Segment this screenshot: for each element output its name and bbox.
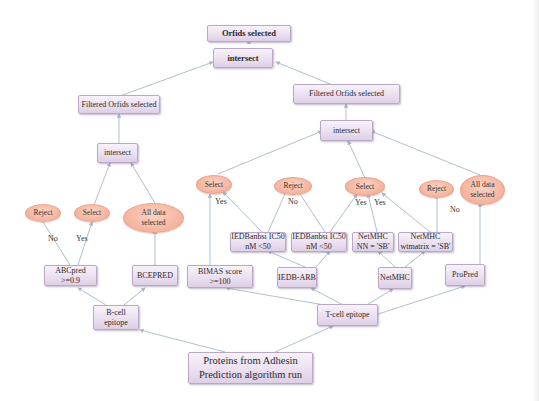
all-data-selected-t: All data selected bbox=[460, 175, 505, 205]
intersect-top-node: intersect bbox=[213, 48, 273, 68]
netmhc-wtmatrix-node: NetMHC wtmatrix = 'SB' bbox=[398, 232, 453, 252]
edge-bcell-to-bcepred bbox=[124, 288, 145, 305]
flowchart-canvas: Orfids selected intersect Filtered Orfid… bbox=[0, 0, 539, 401]
edge-tcell-to-bimas bbox=[226, 288, 330, 306]
edge-proteins-to-bcell bbox=[140, 330, 225, 352]
netmhc-node: NetMHC bbox=[378, 267, 412, 289]
all-data-selected-b: All data selected bbox=[123, 203, 184, 233]
iedb-ic50-node-2: IEDBanbsi IC50 nM <50 bbox=[291, 232, 347, 252]
edge-filteredleft-to-intersect bbox=[120, 62, 213, 96]
filtered-orfids-left-node: Filtered Orfids selected bbox=[78, 95, 160, 114]
proteins-adhesin-node: Proteins from Adhesin Prediction algorit… bbox=[188, 352, 313, 384]
select-decision-b: Select bbox=[74, 204, 110, 222]
edge-ic50b-to-rejectt1 bbox=[300, 194, 325, 232]
edge-abcpred-to-reject bbox=[43, 222, 70, 265]
edge-alldatat-to-intersectright bbox=[371, 131, 480, 175]
intersect-right-node: intersect bbox=[320, 120, 373, 141]
edge-label-no: No bbox=[288, 197, 298, 206]
edge-alldatab-to-intersectleft bbox=[131, 163, 155, 203]
orfids-selected-node: Orfids selected bbox=[207, 25, 291, 42]
edge-netmhc-to-nn bbox=[378, 251, 395, 267]
reject-decision-t1: Reject bbox=[274, 177, 312, 195]
edge-label-yes: Yes bbox=[355, 198, 367, 207]
edge-label-yes: Yes bbox=[374, 198, 386, 207]
edge-iedbarb-to-ic50a bbox=[268, 251, 305, 267]
intersect-left-node: intersect bbox=[97, 143, 138, 163]
bimas-node: BIMAS score >=100 bbox=[187, 265, 253, 288]
edge-abcpred-to-select bbox=[78, 222, 92, 265]
edge-ic50a-to-rejectt1 bbox=[268, 194, 285, 232]
edge-proteins-to-tcell bbox=[275, 326, 333, 352]
iedb-ic50-node-1: IEDBanbsi IC50 nM <50 bbox=[230, 232, 286, 252]
edge-bcell-to-abcpred bbox=[78, 288, 106, 305]
abcpred-node: ABCpred >=0.9 bbox=[44, 265, 97, 286]
netmhc-nn-node: NetMHC NN = 'SB' bbox=[352, 232, 394, 252]
edge-selectb-to-intersectleft bbox=[94, 163, 110, 205]
bcepred-node: BCEPRED bbox=[132, 265, 178, 286]
reject-decision-t2: Reject bbox=[419, 180, 454, 198]
t-cell-epitope-node: T-cell epitope bbox=[317, 304, 378, 326]
page-edge-shadow bbox=[533, 0, 539, 401]
edge-selectt2-to-intersectright bbox=[348, 141, 365, 178]
reject-decision-b: Reject bbox=[25, 204, 61, 222]
edge-ic50b-to-selectt2 bbox=[330, 194, 357, 232]
edge-filteredright-to-intersect bbox=[276, 62, 335, 86]
edge-wm-to-selectt2 bbox=[382, 193, 430, 232]
filtered-orfids-right-node: Filtered Orfids selected bbox=[293, 84, 400, 104]
select-decision-t2: Select bbox=[345, 177, 385, 196]
propred-node: ProPred bbox=[445, 264, 485, 286]
edge-iedbarb-to-ic50b bbox=[316, 251, 330, 267]
edge-label-yes: Yes bbox=[76, 234, 88, 243]
iedb-arb-node: IEDB-ARB bbox=[277, 267, 317, 288]
edge-ic50a-to-selectt1 bbox=[223, 192, 262, 232]
edge-selectt1-to-intersectright bbox=[218, 131, 322, 174]
b-cell-epitope-node: B-cell epitope bbox=[93, 305, 139, 330]
edge-netmhc-to-wm bbox=[405, 251, 425, 267]
select-decision-t1: Select bbox=[196, 175, 232, 194]
edge-label-yes: Yes bbox=[215, 197, 227, 206]
edge-label-no: No bbox=[450, 205, 460, 214]
edge-label-no: No bbox=[48, 234, 58, 243]
